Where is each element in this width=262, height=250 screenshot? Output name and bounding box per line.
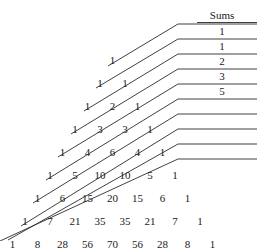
pascal-cell: 1: [110, 55, 116, 66]
pascal-cell: 28: [57, 239, 68, 250]
pascal-cell: 3: [97, 124, 103, 135]
pascal-cell: 1: [122, 78, 128, 89]
pascal-cell: 15: [82, 193, 93, 204]
pascal-cell: 56: [82, 239, 93, 250]
pascal-cell: 35: [95, 216, 106, 227]
pascal-cell: 20: [107, 193, 118, 204]
diagonal-sum-value: 3: [219, 71, 225, 82]
pascal-cell: 1: [60, 147, 66, 158]
pascal-cell: 8: [185, 239, 191, 250]
pascal-cell: 10: [95, 170, 106, 181]
pascal-cell: 1: [35, 193, 41, 204]
pascal-cell: 6: [110, 147, 116, 158]
pascal-cell: 1: [97, 78, 103, 89]
pascal-cell: 35: [120, 216, 131, 227]
diagonal-sum-value: 1: [219, 26, 225, 37]
pascal-cell: 5: [147, 170, 153, 181]
pascal-cell: 21: [70, 216, 81, 227]
sums-column-header: Sums: [210, 10, 234, 21]
pascal-cell: 4: [85, 147, 91, 158]
diagonal-sum-value: 2: [219, 56, 225, 67]
pascal-cell: 1: [160, 147, 166, 158]
pascal-cell: 1: [197, 216, 203, 227]
pascal-cell: 56: [132, 239, 143, 250]
pascal-cell: 21: [145, 216, 156, 227]
pascal-cell: 3: [122, 124, 128, 135]
pascal-cell: 1: [22, 216, 28, 227]
pascal-cell: 1: [147, 124, 153, 135]
pascal-cell: 6: [60, 193, 66, 204]
pascal-cell: 15: [132, 193, 143, 204]
pascal-cell: 1: [210, 239, 216, 250]
pascal-cell: 7: [47, 216, 53, 227]
pascal-cell: 4: [135, 147, 141, 158]
pascal-cell: 6: [160, 193, 166, 204]
pascal-cell: 1: [185, 193, 191, 204]
pascal-cell: 8: [35, 239, 41, 250]
pascal-cell: 70: [107, 239, 118, 250]
pascal-cell: 28: [157, 239, 168, 250]
pascal-cell: 1: [72, 124, 78, 135]
pascal-cell: 7: [172, 216, 178, 227]
pascal-cell: 1: [47, 170, 53, 181]
pascal-cell: 5: [72, 170, 78, 181]
diagonal-sum-value: 1: [219, 41, 225, 52]
pascal-cell: 1: [85, 101, 91, 112]
pascal-cell: 2: [110, 101, 116, 112]
pascal-cell: 1: [10, 239, 16, 250]
pascal-cell: 1: [135, 101, 141, 112]
pascal-cell: 1: [172, 170, 178, 181]
pascal-cell: 10: [120, 170, 131, 181]
diagonal-sum-value: 5: [219, 86, 225, 97]
